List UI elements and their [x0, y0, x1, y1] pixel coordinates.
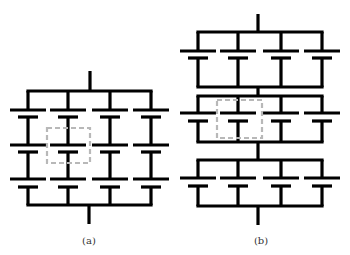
- capacitor-network-figure: [0, 0, 350, 255]
- subfigure-label-b: (b): [254, 235, 268, 246]
- diagram-a-grid-network: [10, 71, 169, 224]
- diagram-b-series-blocks: [180, 14, 340, 225]
- subfigure-label-a: (a): [82, 235, 96, 246]
